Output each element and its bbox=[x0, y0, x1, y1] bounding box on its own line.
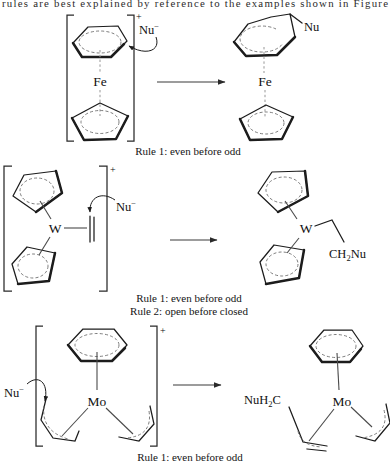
nucleophile-symbol: Nu bbox=[139, 23, 155, 37]
rule-caption: Rule 1: even before odd bbox=[136, 292, 242, 304]
scheme-tungsten: + W Nu− W CH2Nu bbox=[4, 164, 367, 317]
bracket-right bbox=[127, 15, 134, 141]
nucleophile-charge: − bbox=[154, 21, 159, 31]
scheme-molybdenum: Nu− + Mo Mo NuH2C bbox=[4, 325, 390, 463]
cp-aromatic-circle bbox=[81, 111, 119, 134]
cp-ring-front-edge bbox=[36, 171, 62, 212]
metal-label: Fe bbox=[93, 74, 107, 89]
metal-label: Mo bbox=[333, 394, 352, 409]
cation-charge: + bbox=[136, 11, 142, 22]
formula-pre: NuH bbox=[244, 393, 268, 407]
nucleophile-symbol: Nu bbox=[116, 200, 132, 214]
figure-canvas: rules are best explained by reference to… bbox=[0, 0, 390, 465]
cp-aromatic-circle bbox=[266, 177, 302, 203]
alkene-second-line bbox=[307, 449, 326, 451]
nucleophile-label: Nu− bbox=[4, 384, 24, 400]
rule-caption: Rule 1: even before odd bbox=[137, 451, 243, 463]
product-substituent-label: Nu bbox=[304, 20, 320, 34]
dienyl-dashed-arc bbox=[240, 26, 283, 52]
clipped-text-line: rules are best explained by reference to… bbox=[2, 0, 388, 9]
formula-post: C bbox=[273, 393, 281, 407]
formula-pre: CH bbox=[329, 247, 346, 261]
metal-label: W bbox=[49, 221, 62, 236]
rule-caption: Rule 1: even before odd bbox=[135, 145, 241, 157]
cp-ring-front-edge bbox=[72, 116, 128, 140]
cation-charge: + bbox=[110, 164, 116, 175]
bracket-left bbox=[36, 326, 43, 446]
metal-ring-bond bbox=[287, 238, 299, 253]
cp-ring-front-edge bbox=[240, 117, 293, 140]
allyl-ligand bbox=[41, 399, 79, 441]
cp-aromatic-circle bbox=[266, 252, 298, 276]
cyclohexadienyl-ring bbox=[234, 14, 295, 56]
cp-ring bbox=[13, 171, 62, 212]
nucleophile-label: Nu− bbox=[139, 21, 159, 37]
bracket-right bbox=[99, 166, 107, 291]
scheme-iron: + Fe Nu− Nu Fe Rule 1: even bef bbox=[67, 11, 320, 157]
cp-ring-front-edge bbox=[18, 253, 55, 284]
curved-attack-arrow bbox=[90, 196, 115, 212]
product-substituent-label: CH2Nu bbox=[329, 247, 367, 263]
bracket-left bbox=[4, 166, 12, 291]
rule-caption: Rule 2: open before closed bbox=[130, 305, 248, 317]
benzene-aromatic-circle bbox=[79, 31, 121, 53]
metal-allyl-bond bbox=[351, 407, 372, 427]
cp-ring bbox=[258, 171, 308, 212]
metal-ch2-bond bbox=[315, 220, 344, 242]
metal-label: W bbox=[300, 221, 313, 236]
cation-charge: + bbox=[160, 325, 166, 336]
cp-aromatic-circle bbox=[20, 178, 54, 204]
metal-ring-bond bbox=[39, 237, 50, 255]
cp-aromatic-circle bbox=[18, 254, 48, 278]
nucleophile-charge: − bbox=[131, 198, 136, 208]
cp-aromatic-circle bbox=[248, 112, 284, 134]
cp-ring-front-edge bbox=[278, 171, 308, 212]
benzene-aromatic-circle bbox=[316, 335, 356, 358]
formula-post: Nu bbox=[351, 247, 367, 261]
curved-attack-arrow bbox=[129, 37, 157, 51]
alkyl-allyl-chain bbox=[289, 407, 327, 446]
product-substituent-label: NuH2C bbox=[244, 393, 281, 409]
metal-label: Fe bbox=[258, 74, 272, 89]
benzene-ring-front-edge bbox=[310, 346, 361, 362]
nucleophile-symbol: Nu bbox=[4, 386, 20, 400]
metal-allyl-bond bbox=[309, 409, 334, 441]
nucleophile-label: Nu− bbox=[116, 198, 136, 214]
benzene-ring-front-edge bbox=[73, 43, 124, 57]
metal-allyl-bond bbox=[62, 408, 88, 436]
metal-allyl-bond bbox=[106, 408, 133, 434]
metal-ring-bond bbox=[337, 353, 339, 390]
nucleophile-charge: − bbox=[19, 384, 24, 394]
metal-label: Mo bbox=[88, 394, 107, 409]
